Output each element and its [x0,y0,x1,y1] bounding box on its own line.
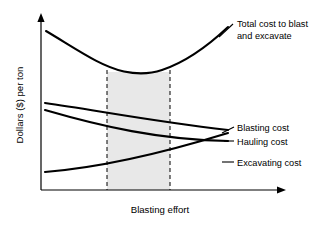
optimum-range-shading [107,72,170,190]
y-axis-title: Dollars ($) per ton [14,67,25,144]
series-label-excavating-cost: Excavating cost [237,158,302,168]
cost-vs-blasting-effort-chart: Dollars ($) per ton Blasting effort Tota… [0,0,324,227]
chart-canvas: Dollars ($) per ton Blasting effort Tota… [0,0,324,227]
series-label-total-cost-line2: and excavate [237,31,292,41]
series-label-total-cost-line1: Total cost to blast [237,19,308,29]
series-label-hauling-cost: Hauling cost [237,137,288,147]
x-axis-arrowhead [277,186,286,193]
total-cost-leader-line [219,24,233,37]
y-axis-arrowhead [37,13,44,22]
series-label-blasting-cost: Blasting cost [237,123,290,133]
x-axis-title: Blasting effort [131,204,190,215]
series-total-cost-curve [46,27,228,73]
